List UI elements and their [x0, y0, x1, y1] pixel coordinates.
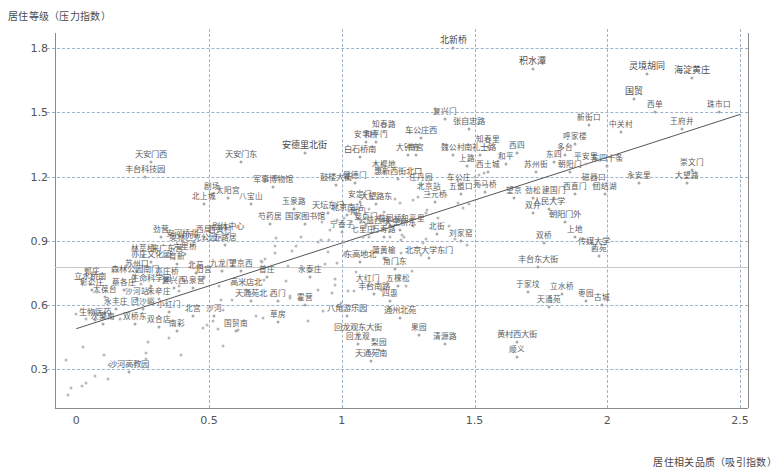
- data-point[interactable]: [516, 152, 519, 155]
- data-point[interactable]: [223, 244, 226, 247]
- data-point[interactable]: [585, 299, 588, 302]
- data-point[interactable]: [482, 172, 485, 175]
- data-point[interactable]: [399, 202, 402, 205]
- data-point[interactable]: [349, 221, 352, 224]
- data-point[interactable]: [172, 322, 175, 325]
- data-point[interactable]: [346, 314, 349, 317]
- data-point[interactable]: [606, 164, 609, 167]
- data-point[interactable]: [399, 317, 402, 320]
- data-point[interactable]: [274, 236, 277, 239]
- data-point[interactable]: [288, 296, 291, 299]
- data-point[interactable]: [421, 242, 424, 245]
- data-point[interactable]: [574, 235, 577, 238]
- data-point[interactable]: [217, 284, 220, 287]
- data-point[interactable]: [327, 212, 330, 215]
- data-point[interactable]: [369, 359, 372, 362]
- data-point[interactable]: [250, 299, 253, 302]
- data-point[interactable]: [320, 239, 323, 242]
- data-point[interactable]: [118, 318, 121, 321]
- data-point[interactable]: [397, 274, 400, 277]
- data-point[interactable]: [146, 340, 149, 343]
- data-point[interactable]: [646, 72, 649, 75]
- data-point[interactable]: [600, 304, 603, 307]
- data-point[interactable]: [399, 252, 402, 255]
- data-point[interactable]: [484, 190, 487, 193]
- data-point[interactable]: [405, 285, 408, 288]
- data-point[interactable]: [226, 197, 229, 200]
- data-point[interactable]: [168, 337, 171, 340]
- data-point[interactable]: [399, 239, 402, 242]
- data-point[interactable]: [144, 175, 147, 178]
- data-point[interactable]: [516, 340, 519, 343]
- data-point[interactable]: [65, 359, 68, 362]
- data-point[interactable]: [339, 302, 342, 305]
- data-point[interactable]: [415, 154, 418, 157]
- data-point[interactable]: [316, 289, 319, 292]
- data-point[interactable]: [477, 174, 480, 177]
- data-point[interactable]: [180, 354, 183, 357]
- data-point[interactable]: [402, 236, 405, 239]
- data-point[interactable]: [400, 233, 403, 236]
- data-point[interactable]: [680, 128, 683, 131]
- data-point[interactable]: [217, 328, 220, 331]
- data-point[interactable]: [513, 197, 516, 200]
- data-point[interactable]: [352, 289, 355, 292]
- data-point[interactable]: [516, 355, 519, 358]
- data-point[interactable]: [587, 124, 590, 127]
- data-point[interactable]: [379, 288, 382, 291]
- data-point[interactable]: [685, 182, 688, 185]
- data-point[interactable]: [537, 265, 540, 268]
- data-point[interactable]: [266, 276, 269, 279]
- data-point[interactable]: [107, 378, 110, 381]
- data-point[interactable]: [561, 293, 564, 296]
- data-point[interactable]: [327, 250, 330, 253]
- data-point[interactable]: [177, 289, 180, 292]
- data-point[interactable]: [102, 353, 105, 356]
- data-point[interactable]: [291, 249, 294, 252]
- data-point[interactable]: [140, 282, 143, 285]
- data-point[interactable]: [271, 186, 274, 189]
- data-point[interactable]: [107, 363, 110, 366]
- data-point[interactable]: [263, 258, 266, 261]
- data-point[interactable]: [563, 154, 566, 157]
- data-point[interactable]: [362, 235, 365, 238]
- data-point[interactable]: [261, 316, 264, 319]
- data-point[interactable]: [340, 308, 343, 311]
- data-point[interactable]: [133, 323, 136, 326]
- data-point[interactable]: [222, 309, 225, 312]
- data-point[interactable]: [359, 261, 362, 264]
- data-point[interactable]: [368, 207, 371, 210]
- data-point[interactable]: [359, 156, 362, 159]
- data-point[interactable]: [307, 320, 310, 323]
- data-point[interactable]: [389, 235, 392, 238]
- data-point[interactable]: [239, 160, 242, 163]
- data-point[interactable]: [448, 225, 451, 228]
- data-point[interactable]: [486, 171, 489, 174]
- data-point[interactable]: [70, 387, 73, 390]
- data-point[interactable]: [157, 325, 160, 328]
- data-point[interactable]: [303, 222, 306, 225]
- data-point[interactable]: [388, 250, 391, 253]
- data-point[interactable]: [260, 260, 263, 263]
- data-point[interactable]: [444, 117, 447, 120]
- data-point[interactable]: [160, 235, 163, 238]
- data-point[interactable]: [128, 370, 131, 373]
- data-point[interactable]: [468, 128, 471, 131]
- data-point[interactable]: [173, 287, 176, 290]
- data-point[interactable]: [145, 351, 148, 354]
- data-point[interactable]: [478, 184, 481, 187]
- data-point[interactable]: [474, 176, 477, 179]
- data-point[interactable]: [425, 211, 428, 214]
- data-point[interactable]: [340, 231, 343, 234]
- data-point[interactable]: [273, 251, 276, 254]
- data-point[interactable]: [388, 299, 391, 302]
- data-point[interactable]: [203, 275, 206, 278]
- data-point[interactable]: [211, 319, 214, 322]
- data-point[interactable]: [417, 196, 420, 199]
- data-point[interactable]: [526, 291, 529, 294]
- data-point[interactable]: [303, 152, 306, 155]
- data-point[interactable]: [221, 269, 224, 272]
- data-point[interactable]: [531, 212, 534, 215]
- data-point[interactable]: [192, 314, 195, 317]
- data-point[interactable]: [393, 267, 396, 270]
